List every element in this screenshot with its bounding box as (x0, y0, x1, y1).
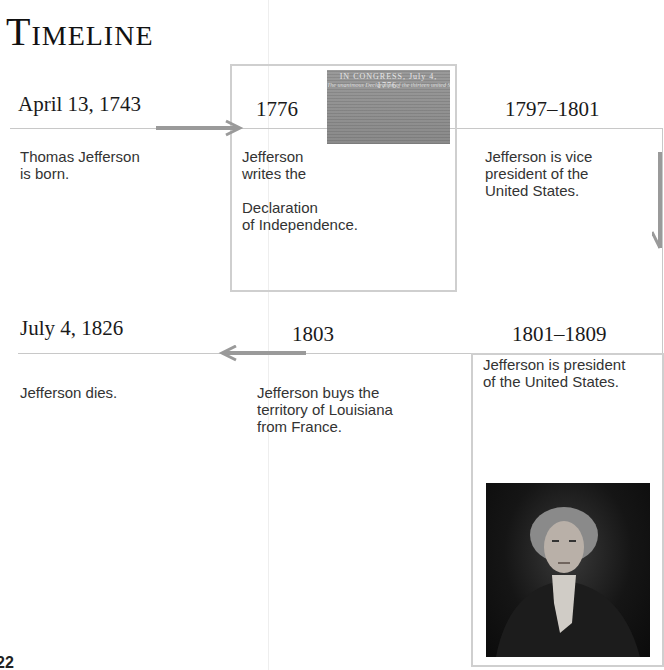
declaration-document-image: IN CONGRESS, July 4, 1776. The unanimous… (327, 70, 450, 144)
jefferson-portrait-image (486, 483, 650, 657)
arrow-down-icon (652, 152, 664, 252)
arrow-left-icon (218, 345, 308, 363)
event-date: 1776 (256, 97, 298, 122)
arrow-right-icon (156, 119, 246, 137)
event-description: Jefferson is president of the United Sta… (483, 356, 625, 390)
event-date: April 13, 1743 (18, 92, 141, 117)
event-date: 1797–1801 (505, 97, 600, 122)
event-description: Jefferson buys the territory of Louisian… (257, 384, 393, 435)
event-description: Jefferson writes the Declaration of Inde… (242, 148, 358, 233)
page-title: Timeline (6, 8, 154, 55)
document-subheading: The unanimous Declaration of the thirtee… (327, 82, 450, 88)
event-date: 1801–1809 (512, 322, 607, 347)
event-date: July 4, 1826 (20, 316, 123, 341)
event-date: 1803 (292, 322, 334, 347)
page-number: 22 (0, 654, 14, 670)
event-description: Thomas Jefferson is born. (20, 148, 140, 182)
event-description: Jefferson dies. (20, 384, 117, 401)
event-description: Jefferson is vice president of the Unite… (485, 148, 592, 199)
